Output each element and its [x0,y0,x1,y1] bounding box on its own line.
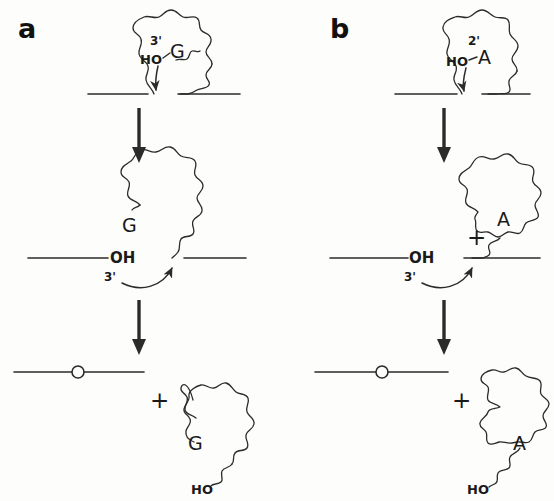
panel-a-stage-2-intermediate: G OH 3' [28,147,246,288]
panel-a-stage-3-products: + G HO [14,366,254,497]
nucleotide-label-b1: A [478,46,491,68]
step-arrow-b-1 [437,108,451,163]
panel-b-stage-3-products: + A HO [315,366,549,497]
hydroxyl-label-b1: HO [446,54,468,69]
panel-b: b 2' HO A [315,10,549,497]
hydroxyl-label-a2: OH [110,249,135,267]
bond-dash-b1 [469,57,477,60]
hydroxyl-label-b3: HO [467,482,489,497]
nucleotide-label-a1: G [170,40,185,62]
plus-sign-b3: + [452,387,471,413]
intron-coil-intermediate [121,147,203,258]
hydroxyl-label-a1: HO [140,52,162,67]
attack-arrow-b1 [463,68,466,91]
prime-label-a2: 3' [104,270,116,284]
panel-a-stage-1-precursor: 3' HO G [88,10,240,94]
plus-sign-a: + [150,387,169,413]
hydroxyl-label-b2: OH [409,249,434,267]
intron-coil-precursor-b-right-arm [488,71,517,94]
nucleotide-label-b3: A [513,432,526,454]
nucleotide-label-a3: G [188,432,203,454]
panel-b-label: b [330,13,349,44]
excised-intron-tail-a [211,464,232,486]
attack-arrow-a1 [156,66,158,90]
figure-canvas: a 3' HO G [0,0,554,501]
attack-arrow-a2 [122,268,172,288]
attack-arrow-b2 [422,268,472,288]
panel-a-label: a [18,13,36,44]
step-arrow-b-2 [437,300,451,355]
intron-coil-precursor-right-arm [180,64,212,94]
panel-b-stage-2-intermediate: A + OH 3' [330,154,541,288]
splicing-figure: a 3' HO G [0,0,554,501]
hydroxyl-label-a3: HO [191,482,213,497]
step-arrow-a-1 [132,108,146,163]
splice-junction-circle-a [72,366,84,378]
panel-b-stage-1-precursor: 2' HO A [395,10,530,94]
prime-label-a1: 3' [150,34,162,48]
panel-a: a 3' HO G [14,10,254,497]
plus-sign-b2: + [467,224,486,250]
intron-free-5prime-arm [132,205,140,210]
nucleotide-label-b2: A [497,208,510,230]
nucleotide-label-a2: G [122,214,137,236]
prime-label-b2: 3' [404,270,416,284]
bond-dash-a1 [163,53,170,58]
step-arrow-a-2 [132,300,146,355]
splice-junction-circle-b [376,366,388,378]
